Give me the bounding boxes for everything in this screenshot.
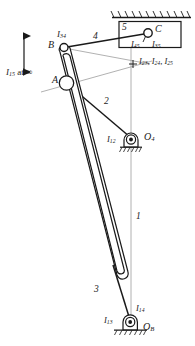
ic-line-from-b bbox=[64, 48, 150, 64]
label-ob: OB bbox=[143, 322, 154, 333]
label-point-c: C bbox=[155, 24, 162, 34]
label-i13: I13 bbox=[104, 316, 112, 326]
label-point-a: A bbox=[52, 75, 58, 85]
label-link-5: 5 bbox=[122, 23, 127, 33]
label-i45: I45 bbox=[131, 40, 139, 50]
joint-a bbox=[59, 76, 73, 90]
label-link-2: 2 bbox=[104, 97, 109, 107]
label-point-b: B bbox=[48, 40, 54, 50]
ground-hatching-top bbox=[111, 11, 191, 18]
label-i23-i24-i25: I23, I24, I25 bbox=[139, 57, 173, 67]
joint-c bbox=[144, 29, 152, 37]
label-o4: O4 bbox=[144, 132, 155, 143]
label-link-1: 1 bbox=[136, 212, 141, 222]
label-i14: I14 bbox=[136, 304, 144, 314]
label-i12: I12 bbox=[107, 135, 115, 145]
joint-b bbox=[60, 44, 68, 52]
label-link-4: 4 bbox=[93, 32, 98, 42]
label-i15-at-infinity: I15 at ∞ bbox=[6, 68, 32, 78]
label-i34: I34 bbox=[57, 30, 66, 40]
label-link-3: 3 bbox=[94, 285, 99, 295]
figure-canvas: I15 at ∞ I34 B 4 5 C I45 I35 I23, I24, I… bbox=[0, 0, 195, 346]
label-i35: I35 bbox=[152, 40, 160, 50]
